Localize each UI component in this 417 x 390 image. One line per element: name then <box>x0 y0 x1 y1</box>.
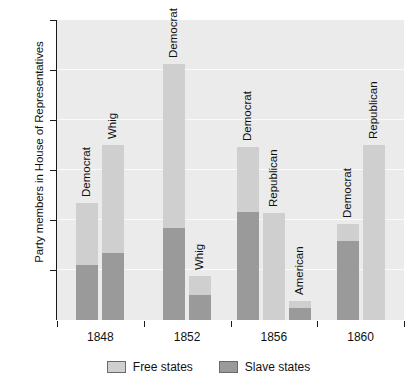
x-tick-mark <box>57 321 58 327</box>
bar-label: Democrat <box>340 168 352 218</box>
bar-1852-whig: Whig <box>189 276 211 320</box>
bar-segment-slave-states <box>163 228 185 320</box>
bar-1852-democrat: Democrat <box>163 64 185 320</box>
bar-1856-republican: Republican <box>263 213 285 320</box>
legend-item-free-states: Free states <box>107 360 193 374</box>
plot-area: DemocratWhigDemocratWhigDemocratRepublic… <box>57 20 404 320</box>
bar-segment-free-states <box>263 213 285 320</box>
legend-label-slave-states: Slave states <box>245 360 310 374</box>
x-tick-label: 1860 <box>326 330 396 344</box>
stacked-bar-chart: Party members in House of Representative… <box>0 0 417 390</box>
x-tick-label: 1856 <box>239 330 309 344</box>
x-tick-mark <box>404 321 405 327</box>
bar-segment-free-states <box>337 224 359 241</box>
legend-swatch-slave-states <box>219 361 238 373</box>
y-tick-mark <box>50 170 57 171</box>
y-tick-mark <box>50 270 57 271</box>
bar-1848-whig: Whig <box>102 145 124 320</box>
bar-segment-slave-states <box>289 308 311 320</box>
legend-item-slave-states: Slave states <box>219 360 310 374</box>
bar-label: Democrat <box>167 8 179 58</box>
bar-segment-free-states <box>76 203 98 265</box>
y-tick-mark <box>50 220 57 221</box>
bar-label: Republican <box>266 149 278 207</box>
bar-1848-democrat: Democrat <box>76 203 98 320</box>
bar-label: American <box>292 246 304 295</box>
legend-swatch-free-states <box>107 361 126 373</box>
bar-segment-slave-states <box>337 241 359 320</box>
bar-segment-slave-states <box>189 295 211 320</box>
bar-segment-free-states <box>289 301 311 308</box>
bar-segment-free-states <box>363 145 385 320</box>
x-tick-label: 1848 <box>65 330 135 344</box>
y-tick-mark <box>50 120 57 121</box>
chart-legend: Free states Slave states <box>0 360 417 374</box>
bar-segment-slave-states <box>237 212 259 320</box>
bar-1860-democrat: Democrat <box>337 224 359 320</box>
legend-label-free-states: Free states <box>133 360 193 374</box>
bar-segment-free-states <box>237 147 259 212</box>
bar-1860-republican: Republican <box>363 145 385 320</box>
bar-segment-free-states <box>163 64 185 228</box>
bar-label: Republican <box>366 81 378 139</box>
bar-segment-slave-states <box>76 265 98 320</box>
bar-segment-free-states <box>102 145 124 253</box>
bar-label: Democrat <box>240 91 252 141</box>
x-tick-label: 1852 <box>152 330 222 344</box>
y-tick-mark <box>50 70 57 71</box>
x-tick-mark <box>317 321 318 327</box>
bar-label: Whig <box>106 113 118 139</box>
bar-segment-free-states <box>189 276 211 295</box>
x-tick-mark <box>231 321 232 327</box>
bar-1856-american: American <box>289 301 311 320</box>
x-tick-mark <box>144 321 145 327</box>
bar-label: Democrat <box>80 147 92 197</box>
bar-1856-democrat: Democrat <box>237 147 259 320</box>
y-axis-title: Party members in House of Representative… <box>33 27 45 277</box>
bar-segment-slave-states <box>102 253 124 320</box>
y-tick-mark <box>50 20 57 21</box>
gridline <box>57 69 404 70</box>
bar-label: Whig <box>193 244 205 270</box>
